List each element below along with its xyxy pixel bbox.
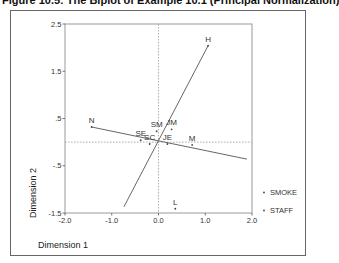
y-tick-label: 2.5: [51, 20, 61, 29]
data-point-m: [191, 144, 193, 146]
legend-label-staff: STAFF: [270, 206, 294, 215]
point-label-je: JE: [163, 133, 172, 142]
data-point-n: [91, 126, 93, 128]
point-label-l: L: [173, 198, 178, 207]
data-point-jm: [171, 128, 173, 130]
point-label-jm: JM: [166, 118, 177, 127]
y-tick-label: 1.5: [51, 67, 61, 76]
y-tick-label: -.5: [53, 161, 62, 170]
point-label-m: M: [189, 134, 196, 143]
data-point-l: [174, 208, 176, 210]
data-point-se: [140, 139, 142, 141]
point-label-sc: SC: [144, 133, 155, 142]
legend-label-smoke: SMOKE: [270, 188, 297, 197]
legend-marker-staff: [263, 210, 265, 212]
y-axis-label: Dimension 2: [28, 168, 38, 218]
legend-marker-smoke: [263, 192, 265, 194]
x-tick-label: -1.0: [105, 216, 118, 225]
x-axis-label: Dimension 1: [38, 240, 88, 250]
x-tick-label: 2.0: [247, 216, 257, 225]
data-point-h: [207, 45, 209, 47]
biplot-axis-line: [92, 127, 247, 159]
point-label-sm: SM: [151, 120, 163, 129]
data-point-sc: [149, 143, 151, 145]
data-point-sm: [156, 130, 158, 132]
point-label-h: H: [205, 35, 211, 44]
x-tick-label: 1.0: [200, 216, 210, 225]
point-label-n: N: [89, 116, 95, 125]
data-point-je: [166, 143, 168, 145]
y-tick-label: .5: [55, 114, 61, 123]
y-tick-label: -1.5: [49, 209, 62, 218]
x-tick-label: 0.0: [153, 216, 163, 225]
